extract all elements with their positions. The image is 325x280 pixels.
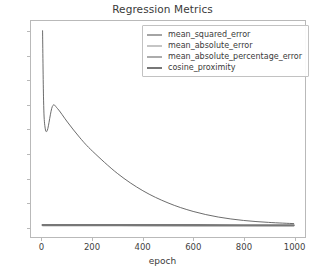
x-tick-label: 1000 — [284, 242, 306, 252]
x-tick-label: 0 — [39, 242, 44, 252]
y-tick-mark — [27, 203, 30, 204]
legend-line-icon — [146, 53, 163, 61]
legend-item[interactable]: mean_absolute_percentage_error — [146, 51, 304, 62]
legend-line-icon — [146, 64, 163, 72]
x-tick-mark — [92, 238, 93, 241]
legend-item[interactable]: cosine_proximity — [146, 62, 304, 73]
y-tick-mark — [27, 56, 30, 57]
x-tick-mark — [244, 238, 245, 241]
y-tick-mark — [27, 80, 30, 81]
x-tick-mark — [295, 238, 296, 241]
x-tick-mark — [193, 238, 194, 241]
x-tick-label: 800 — [236, 242, 252, 252]
x-tick-label: 400 — [135, 242, 151, 252]
legend-line-icon — [146, 31, 163, 39]
chart-legend: mean_squared_errormean_absolute_errormea… — [142, 25, 309, 77]
y-tick-mark — [27, 129, 30, 130]
matplotlib-figure: Regression Metrics 01020304050607080 020… — [0, 0, 325, 280]
x-tick-label: 600 — [185, 242, 201, 252]
legend-label: mean_absolute_error — [168, 40, 252, 51]
x-tick-mark — [41, 238, 42, 241]
legend-label: cosine_proximity — [168, 62, 235, 73]
legend-item[interactable]: mean_absolute_error — [146, 40, 304, 51]
y-tick-mark — [27, 105, 30, 106]
x-axis-label: epoch — [0, 256, 325, 266]
x-tick-mark — [143, 238, 144, 241]
legend-line-icon — [146, 42, 163, 50]
legend-label: mean_squared_error — [168, 29, 250, 40]
y-tick-mark — [27, 228, 30, 229]
legend-item[interactable]: mean_squared_error — [146, 29, 304, 40]
x-tick-label: 200 — [84, 242, 100, 252]
chart-title: Regression Metrics — [0, 3, 325, 15]
y-tick-mark — [27, 31, 30, 32]
legend-label: mean_absolute_percentage_error — [168, 51, 302, 62]
y-tick-mark — [27, 154, 30, 155]
y-tick-mark — [27, 179, 30, 180]
